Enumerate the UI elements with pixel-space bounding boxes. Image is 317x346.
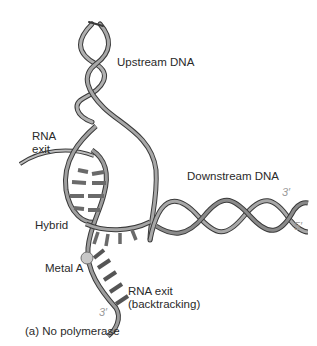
label-downstream-5prime: 5′	[294, 220, 302, 232]
label-hybrid: Hybrid	[35, 219, 68, 232]
label-rna-exit-line2: exit	[32, 143, 56, 156]
label-rna-3prime: 3′	[99, 306, 107, 318]
label-downstream-dna: Downstream DNA	[187, 170, 279, 183]
label-downstream-3prime: 3′	[282, 186, 290, 198]
label-rna-exit-backtracking-line2: (backtracking)	[128, 298, 200, 311]
downstream-dna-helix	[150, 200, 308, 240]
label-rna-exit-line1: RNA	[32, 130, 56, 143]
label-rna-exit: RNA exit	[32, 130, 56, 156]
figure-caption: (a) No polymerase	[25, 325, 120, 337]
label-metal-a: Metal A	[45, 262, 83, 275]
label-rna-exit-backtracking-line1: RNA exit	[128, 285, 200, 298]
label-upstream-dna: Upstream DNA	[117, 56, 194, 69]
label-rna-exit-backtracking: RNA exit (backtracking)	[128, 285, 200, 311]
